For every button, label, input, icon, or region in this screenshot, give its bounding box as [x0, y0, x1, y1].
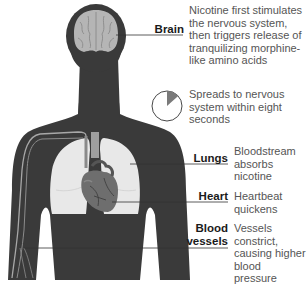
brain-label: Brain: [150, 23, 184, 36]
heart-label: Heart: [190, 190, 228, 203]
blood-vessels-description: Vessels constrict, causing higher blood …: [234, 222, 306, 285]
timer-pie-icon: [152, 91, 182, 121]
timer-description: Spreads to nervous system within eight s…: [189, 88, 299, 126]
blood-vessels-label-line1: Blood: [180, 222, 228, 235]
trachea-icon: [91, 132, 99, 158]
brain-description: Nicotine first stimulates the nervous sy…: [189, 4, 307, 67]
heart-description: Heartbeat quickens: [234, 190, 304, 215]
brain-icon: [74, 10, 118, 52]
blood-vessels-label-line2: vessels: [180, 235, 228, 248]
blood-vessels-label: Blood vessels: [180, 222, 228, 248]
lungs-description: Bloodstream absorbs nicotine: [234, 145, 304, 183]
lungs-label: Lungs: [190, 152, 228, 165]
